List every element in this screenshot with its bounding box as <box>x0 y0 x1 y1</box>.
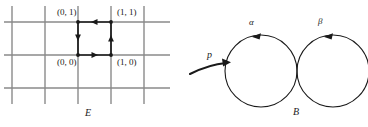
covering-space-diagram <box>0 0 368 127</box>
loop-label-alpha: α <box>249 18 254 27</box>
loop-beta-circle <box>297 35 368 107</box>
square-arrow-left-down-icon <box>75 35 81 42</box>
square-arrow-right-up-icon <box>108 35 114 42</box>
square-arrow-bottom-right-icon <box>92 52 99 58</box>
space-label-E: E <box>85 108 91 118</box>
loop-label-beta: β <box>318 17 322 26</box>
covering-map-label-p: p <box>207 50 212 60</box>
wedge-circles-group <box>225 33 368 107</box>
vertex-label-0-1: (0, 1) <box>57 8 77 17</box>
highlighted-unit-square <box>75 19 114 58</box>
square-vertex-dot-01 <box>76 20 80 24</box>
covering-map-arrow-curve <box>190 63 226 74</box>
loop-alpha-arrowhead-icon <box>252 33 262 39</box>
square-arrow-top-left-icon <box>91 19 98 25</box>
vertex-label-1-1: (1, 1) <box>117 8 137 17</box>
vertex-label-1-0: (1, 0) <box>117 58 137 67</box>
vertex-label-0-0: (0, 0) <box>57 58 77 67</box>
space-label-B: B <box>293 107 299 117</box>
loop-alpha-circle <box>225 35 297 107</box>
square-vertex-dot-00 <box>76 53 80 57</box>
square-vertex-dot-10 <box>109 53 113 57</box>
square-vertex-dot-11 <box>109 20 113 24</box>
loop-beta-arrowhead-icon <box>324 33 334 39</box>
